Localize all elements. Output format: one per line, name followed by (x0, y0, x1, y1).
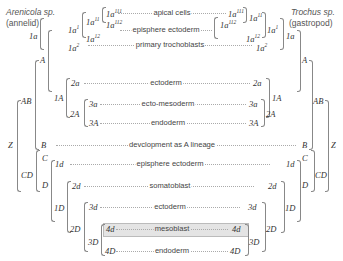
label-D-left: D (42, 180, 48, 190)
brace-episphere-right (214, 17, 218, 39)
label-AB-right: AB (313, 96, 323, 106)
label-1a112-left: 1a112 (106, 17, 122, 30)
label-3A-right: 3A (249, 118, 258, 128)
fate-apical-cells: apical cells (152, 8, 191, 18)
label-C-left: C (42, 153, 48, 163)
label-4d-right: 4d (232, 224, 241, 234)
fate-somatoblast: somatoblast (149, 181, 192, 191)
fate-episphere-ectoderm-1: episphere ectoderm (131, 25, 200, 35)
label-1d-left: 1d (55, 159, 64, 169)
label-3A-left: 3A (89, 118, 98, 128)
label-4d-left: 4d (106, 224, 115, 234)
label-Z-left: Z (8, 140, 13, 150)
brace-CD-left (36, 150, 40, 192)
label-1a1-right: 1a1 (267, 22, 278, 35)
label-C-right: C (302, 153, 308, 163)
label-3d-right: 3d (248, 202, 257, 212)
label-3a-left: 3a (89, 99, 98, 109)
label-2d-right: 2d (268, 181, 277, 191)
label-B-left: B (41, 140, 46, 150)
label-1d-right: 1d (286, 159, 295, 169)
label-3D-left: 3D (88, 237, 98, 247)
left-species-name: Arenicola sp. (6, 7, 55, 17)
label-1a12-left: 1a12 (86, 31, 100, 44)
brace-AB-left (35, 60, 39, 150)
label-1A-right: 1A (272, 93, 281, 103)
label-2D-right: 2D (266, 224, 276, 234)
brace-A-left (48, 30, 52, 92)
label-1a1-left: 1a1 (68, 22, 79, 35)
label-D-right: D (302, 180, 308, 190)
label-4D-right: 4D (230, 246, 240, 256)
label-1a2-left: 1a2 (68, 40, 79, 53)
fate-mesoblast: mesoblast (154, 224, 191, 234)
brace-D-right (297, 160, 301, 222)
brace-2A-left (84, 99, 88, 127)
label-2a-left: 2a (71, 78, 80, 88)
brace-A-right (297, 30, 301, 92)
label-CD-left: CD (21, 170, 33, 180)
label-Z-right: Z (331, 140, 336, 150)
cell-lineage-diagram: Arenicola sp. (annelid) Trochus sp. (gas… (0, 0, 343, 261)
label-3D-right: 3D (249, 237, 259, 247)
label-2d-left: 2d (72, 181, 81, 191)
label-2D-left: 2D (70, 224, 80, 234)
brace-1a-left (40, 18, 44, 50)
label-4D-left: 4D (105, 246, 115, 256)
label-1a-left: 1a (29, 31, 38, 41)
fate-endoderm-2: endoderm (154, 246, 190, 256)
right-species-group: (gastropod) (289, 18, 332, 28)
label-1a11-right: 1a11 (249, 10, 263, 23)
left-species-group: (annelid) (6, 18, 39, 28)
label-1a11-left: 1a11 (86, 14, 100, 27)
brace-2A-right (261, 99, 265, 127)
fate-endoderm-1: endoderm (150, 118, 186, 128)
label-CD-right: CD (315, 170, 327, 180)
label-3d-left: 3d (89, 202, 98, 212)
fate-ectoderm-2: ectoderm (153, 202, 187, 212)
fate-development-as-a-lineage: devclopment as A lineage (128, 140, 216, 150)
label-1a-right: 1a (286, 31, 295, 41)
brace-1a11-right (243, 7, 247, 23)
label-1a2-right: 1a2 (256, 40, 267, 53)
label-2a-right: 2a (253, 78, 262, 88)
brace-1a1-right (262, 12, 266, 38)
brace-1a-right (280, 18, 284, 50)
fate-ecto-mesoderm: ecto-mesoderm (141, 99, 196, 109)
label-A-right: A (302, 55, 307, 65)
label-B-right: B (302, 140, 307, 150)
label-A-left: A (40, 55, 45, 65)
fate-episphere-ectoderm-2: episphere ectoderm (135, 159, 204, 169)
label-1A-left: 1A (54, 93, 63, 103)
label-2A-right: 2A (266, 109, 275, 119)
fate-ectoderm-1: ectoderm (149, 78, 183, 88)
label-1a112-right: 1a112 (220, 17, 236, 30)
label-2A-left: 2A (70, 109, 79, 119)
label-1D-left: 1D (54, 203, 64, 213)
fate-primary-trochoblasts: primary trochoblasts (135, 40, 205, 50)
label-AB-left: AB (21, 96, 31, 106)
right-species-name: Trochus sp. (291, 7, 335, 17)
label-1D-right: 1D (285, 203, 295, 213)
label-3a-right: 3a (249, 99, 258, 109)
